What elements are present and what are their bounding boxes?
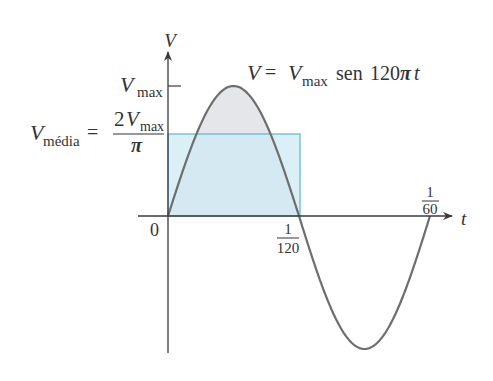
vmax-label: V max	[120, 72, 163, 100]
equation-label: V = V max sen 120 π t	[247, 60, 420, 89]
svg-text:V: V	[247, 60, 263, 85]
svg-text:π: π	[400, 62, 412, 84]
sine-diagram: V t 0 V max V média = 2 V max π V = V ma…	[0, 0, 493, 381]
svg-text:2: 2	[114, 107, 125, 131]
svg-text:max: max	[140, 119, 164, 134]
tick-label-1-60: 1 60	[422, 184, 439, 217]
svg-text:média: média	[43, 133, 80, 149]
vmedia-label: V média = 2 V max π	[30, 107, 164, 156]
svg-text:120: 120	[370, 62, 400, 84]
svg-text:120: 120	[277, 240, 300, 256]
svg-text:max: max	[137, 84, 163, 100]
svg-text:π: π	[131, 134, 143, 156]
svg-text:1: 1	[284, 221, 292, 237]
svg-text:=: =	[87, 121, 98, 143]
y-axis-label: V	[164, 30, 178, 51]
origin-label: 0	[150, 220, 159, 240]
svg-text:60: 60	[423, 201, 438, 217]
svg-text:max: max	[302, 73, 328, 89]
svg-text:t: t	[414, 62, 420, 84]
svg-text:sen: sen	[336, 62, 363, 84]
svg-text:1: 1	[426, 184, 434, 200]
x-axis-label: t	[461, 208, 467, 229]
svg-text:=: =	[265, 61, 276, 83]
svg-text:V: V	[120, 72, 136, 97]
average-value-rect	[168, 134, 300, 216]
svg-text:V: V	[126, 107, 141, 131]
tick-label-1-120: 1 120	[277, 221, 300, 256]
